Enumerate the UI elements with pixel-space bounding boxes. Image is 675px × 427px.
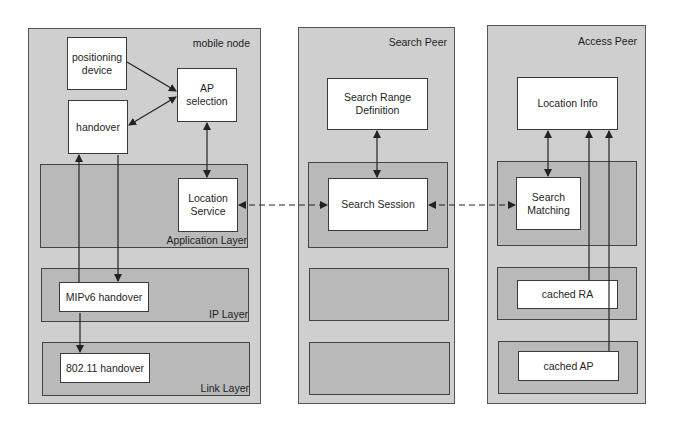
location-info-box: Location Info <box>517 77 618 130</box>
cached-ap-box: cached AP <box>518 351 619 381</box>
search-peer-title: Search Peer <box>340 36 447 48</box>
link-layer-label: Link Layer <box>150 382 249 394</box>
application-layer-label: Application Layer <box>130 234 247 246</box>
positioning-device-box: positioning device <box>67 37 127 90</box>
access-peer-title: Access Peer <box>530 35 637 47</box>
mipv6-handover-box: MIPv6 handover <box>59 282 149 312</box>
search-peer-link-layer <box>309 342 450 395</box>
mobile-node-title: mobile node <box>150 37 250 49</box>
search-matching-box: Search Matching <box>516 177 581 230</box>
location-service-box: Location Service <box>178 178 238 232</box>
cached-ra-box: cached RA <box>517 280 618 309</box>
handover-box: handover <box>68 100 128 154</box>
ip-layer-label: IP Layer <box>150 308 248 320</box>
search-peer-ip-layer <box>309 268 449 321</box>
search-range-definition-box: Search Range Definition <box>327 78 428 130</box>
search-session-box: Search Session <box>328 178 428 231</box>
wifi-handover-box: 802.11 handover <box>60 353 150 383</box>
ap-selection-box: AP selection <box>177 68 237 122</box>
